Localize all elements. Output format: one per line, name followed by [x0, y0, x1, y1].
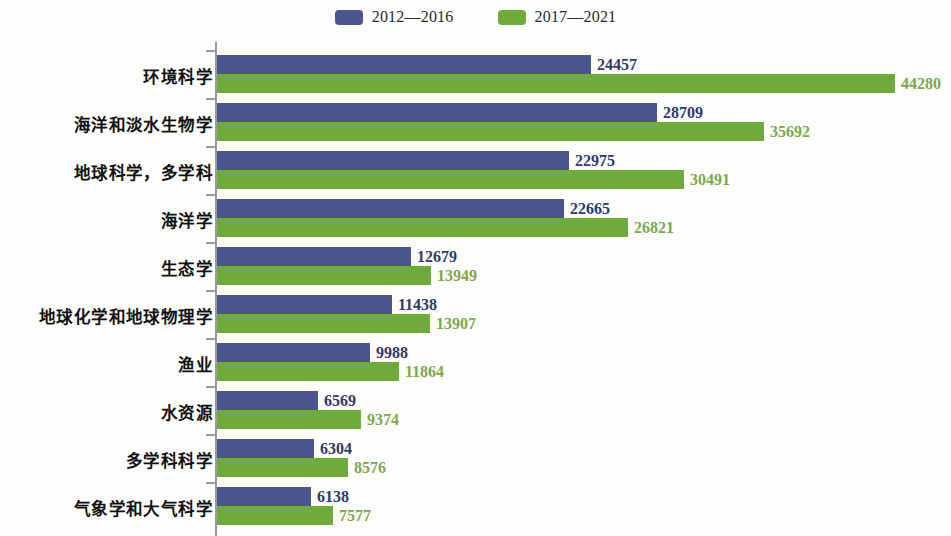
bar[interactable] [217, 151, 569, 170]
bar-value-label: 13949 [437, 267, 477, 285]
category-label: 生态学 [161, 244, 213, 292]
bar[interactable] [217, 410, 361, 429]
category-label: 地球化学和地球物理学 [39, 292, 213, 340]
bar-row: 13907 [217, 314, 476, 333]
category-label: 水资源 [161, 388, 213, 436]
bar-row: 9988 [217, 343, 408, 362]
legend-entry[interactable]: 2012—2016 [335, 8, 454, 26]
bar-row: 7577 [217, 506, 371, 525]
bar[interactable] [217, 506, 333, 525]
bar-row: 26821 [217, 218, 674, 237]
bar-value-label: 13907 [436, 315, 476, 333]
bar[interactable] [217, 391, 318, 410]
bar-group: 多学科科学63048576 [0, 436, 951, 484]
legend-label: 2012—2016 [372, 8, 454, 26]
bar-value-label: 6569 [324, 392, 356, 410]
bar-value-label: 12679 [417, 248, 457, 266]
bar-group: 环境科学2445744280 [0, 52, 951, 100]
bar-group: 海洋学2266526821 [0, 196, 951, 244]
bar-value-label: 24457 [597, 56, 637, 74]
category-label: 地球科学，多学科 [74, 148, 213, 196]
bar-row: 24457 [217, 55, 637, 74]
category-label: 渔业 [178, 340, 213, 388]
bar[interactable] [217, 199, 564, 218]
bar[interactable] [217, 247, 411, 266]
bar[interactable] [217, 218, 628, 237]
bar[interactable] [217, 122, 764, 141]
blue-swatch [335, 10, 363, 25]
legend-label: 2017—2021 [535, 8, 617, 26]
bar-row: 6304 [217, 439, 352, 458]
bar-row: 12679 [217, 247, 457, 266]
bar-row: 9374 [217, 410, 399, 429]
bar-row: 30491 [217, 170, 730, 189]
bar[interactable] [217, 458, 348, 477]
bar-value-label: 26821 [634, 219, 674, 237]
bar-group: 水资源65699374 [0, 388, 951, 436]
bar-value-label: 22665 [570, 200, 610, 218]
bar-row: 44280 [217, 74, 941, 93]
bar[interactable] [217, 295, 392, 314]
bar[interactable] [217, 74, 895, 93]
bar-group: 地球科学，多学科2297530491 [0, 148, 951, 196]
bar-row: 6138 [217, 487, 349, 506]
category-label: 环境科学 [143, 52, 213, 100]
bar[interactable] [217, 487, 311, 506]
legend-entry[interactable]: 2017—2021 [498, 8, 617, 26]
bar-group: 渔业998811864 [0, 340, 951, 388]
category-label: 海洋和淡水生物学 [74, 100, 213, 148]
bar[interactable] [217, 103, 657, 122]
bar-group: 生态学1267913949 [0, 244, 951, 292]
bar-value-label: 30491 [690, 171, 730, 189]
bar[interactable] [217, 343, 370, 362]
bar-row: 8576 [217, 458, 386, 477]
bar-group: 海洋和淡水生物学2870935692 [0, 100, 951, 148]
bar-row: 6569 [217, 391, 356, 410]
green-swatch [498, 10, 526, 25]
bar-row: 35692 [217, 122, 810, 141]
bar-group: 气象学和大气科学61387577 [0, 484, 951, 532]
bar[interactable] [217, 55, 591, 74]
bar-value-label: 9374 [367, 411, 399, 429]
bar-value-label: 44280 [901, 75, 941, 93]
bar[interactable] [217, 362, 399, 381]
chart-page: 2012—20162017—2021 环境科学2445744280海洋和淡水生物… [0, 0, 951, 536]
bar-value-label: 22975 [575, 152, 615, 170]
category-label: 海洋学 [161, 196, 213, 244]
bar-value-label: 7577 [339, 507, 371, 525]
bar[interactable] [217, 170, 684, 189]
bar[interactable] [217, 314, 430, 333]
bar[interactable] [217, 439, 314, 458]
bar-value-label: 35692 [770, 123, 810, 141]
category-label: 气象学和大气科学 [74, 484, 213, 532]
bar-value-label: 9988 [376, 344, 408, 362]
bar-row: 11864 [217, 362, 444, 381]
bar-value-label: 28709 [663, 104, 703, 122]
bar[interactable] [217, 266, 431, 285]
plot-area: 环境科学2445744280海洋和淡水生物学2870935692地球科学，多学科… [0, 42, 951, 536]
bar-value-label: 6304 [320, 440, 352, 458]
bar-value-label: 6138 [317, 488, 349, 506]
bar-value-label: 8576 [354, 459, 386, 477]
category-label: 多学科科学 [126, 436, 213, 484]
bar-row: 22975 [217, 151, 615, 170]
bar-value-label: 11864 [405, 363, 444, 381]
bar-row: 28709 [217, 103, 703, 122]
bar-row: 13949 [217, 266, 477, 285]
bar-group: 地球化学和地球物理学1143813907 [0, 292, 951, 340]
bar-row: 11438 [217, 295, 437, 314]
bar-row: 22665 [217, 199, 610, 218]
bar-value-label: 11438 [398, 296, 437, 314]
chart-legend: 2012—20162017—2021 [0, 4, 951, 30]
